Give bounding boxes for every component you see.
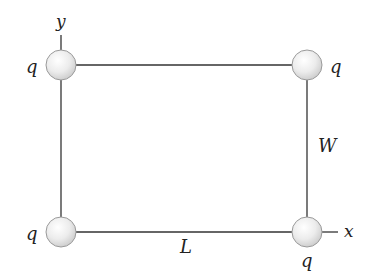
charge-bottom-left <box>46 217 76 247</box>
charge-rectangle-diagram: y x q q q q L W <box>0 0 369 279</box>
charge-top-right <box>292 50 322 80</box>
charge-top-left <box>46 50 76 80</box>
charge-label-bottom-left: q <box>26 223 38 244</box>
charge-bottom-right <box>292 217 322 247</box>
charge-label-bottom-right: q <box>301 250 313 271</box>
charge-label-top-right: q <box>330 56 342 77</box>
width-label: W <box>318 135 338 156</box>
y-axis-label: y <box>55 11 66 31</box>
x-axis-label: x <box>344 221 354 241</box>
charge-label-top-left: q <box>26 56 38 77</box>
diagram-svg: y x q q q q L W <box>0 0 369 279</box>
length-label: L <box>179 236 192 257</box>
